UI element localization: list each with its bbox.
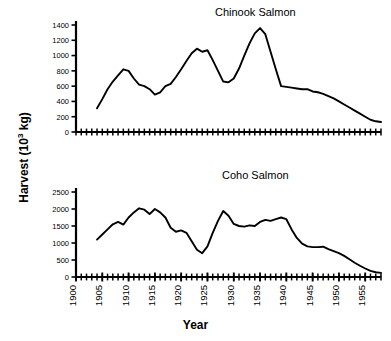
chinook-y-tick-label: 200 xyxy=(56,113,69,122)
chinook-y-tick-label: 600 xyxy=(56,82,69,91)
x-tick-label: 1905 xyxy=(93,285,104,306)
chinook-y-tick-label: 400 xyxy=(56,97,69,106)
coho-y-tick-label: 1000 xyxy=(52,239,69,248)
chinook-y-tick-label: 1000 xyxy=(52,51,69,60)
y-axis-label-text: Harvest (10 xyxy=(17,138,31,203)
x-tick-label: 1930 xyxy=(225,285,236,306)
figure-root: Harvest (103 kg) Chinook Salmon Coho Sal… xyxy=(0,0,391,341)
x-tick-label: 1945 xyxy=(304,285,315,306)
chinook-panel: 0200400600800100012001400 xyxy=(52,21,381,137)
x-tick-label: 1920 xyxy=(172,285,183,306)
coho-y-tick-label: 2500 xyxy=(52,188,69,197)
chinook-y-tick-label: 800 xyxy=(56,67,69,76)
x-tick-label: 1925 xyxy=(198,285,209,306)
x-tick-label: 1910 xyxy=(120,285,131,306)
coho-y-tick-label: 1500 xyxy=(52,222,69,231)
x-tick-label: 1950 xyxy=(330,285,341,306)
coho-y-tick-label: 2000 xyxy=(52,205,69,214)
x-tick-label: 1940 xyxy=(277,285,288,306)
chinook-data-line xyxy=(97,28,381,122)
y-axis-label-exponent: 3 xyxy=(16,134,25,138)
coho-data-line xyxy=(97,208,381,273)
x-tick-label: 1935 xyxy=(251,285,262,306)
x-tick-label: 1955 xyxy=(356,285,367,306)
plot-canvas: 0200400600800100012001400050010001500200… xyxy=(0,0,391,341)
chinook-y-tick-label: 0 xyxy=(65,128,69,137)
y-axis-label-unit: kg) xyxy=(17,112,31,133)
chinook-y-tick-label: 1400 xyxy=(52,21,69,30)
x-axis-label: Year xyxy=(0,318,391,332)
x-tick-label: 1915 xyxy=(146,285,157,306)
coho-y-tick-label: 0 xyxy=(65,273,69,282)
coho-panel: 05001000150020002500 xyxy=(52,188,381,282)
chinook-y-tick-label: 1200 xyxy=(52,36,69,45)
y-axis-label: Harvest (103 kg) xyxy=(16,88,31,228)
x-tick-label: 1900 xyxy=(67,285,78,306)
coho-panel-title: Coho Salmon xyxy=(222,169,289,181)
coho-y-tick-label: 500 xyxy=(56,256,69,265)
chinook-panel-title: Chinook Salmon xyxy=(215,6,296,18)
